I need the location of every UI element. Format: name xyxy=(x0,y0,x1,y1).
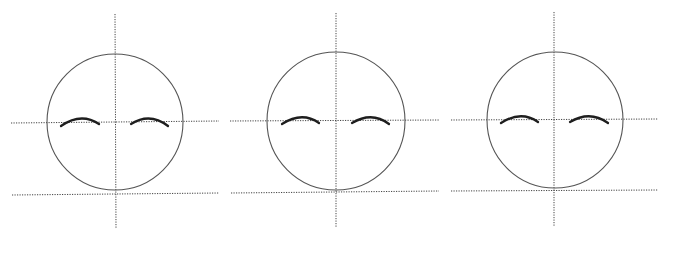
face-2 xyxy=(230,13,439,228)
chin-guide xyxy=(231,191,439,193)
left-eyebrow xyxy=(61,118,99,126)
eye-level-guide xyxy=(11,121,219,123)
chin-guide xyxy=(451,190,658,191)
right-eyebrow xyxy=(131,118,168,126)
eye-level-guide xyxy=(230,120,439,121)
eye-level-guide xyxy=(451,119,658,120)
vertical-center-guide xyxy=(115,14,116,229)
face-1 xyxy=(11,14,219,229)
face-construction-diagram xyxy=(0,0,675,261)
face-3 xyxy=(451,12,658,227)
diagram-canvas xyxy=(0,0,675,261)
